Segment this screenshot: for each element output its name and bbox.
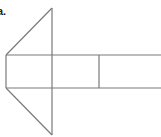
top-triangle-hypotenuse: [6, 8, 52, 55]
net-diagram: [0, 0, 161, 137]
bottom-triangle-hypotenuse: [6, 88, 52, 135]
